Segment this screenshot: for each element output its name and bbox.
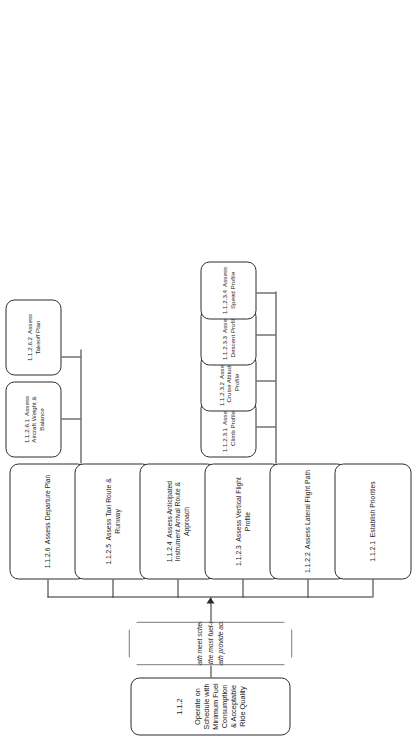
spine-stub-1-1-2-5: [112, 579, 113, 597]
node-1-1-2-6-id: 1.1.2.6: [43, 545, 50, 568]
node-1-1-2-3-id: 1.1.2.3: [234, 543, 241, 566]
node-root-1-1-2[interactable]: 1.1.2 Operate on Schedule with Minimum F…: [130, 677, 290, 735]
node-1-1-2-5-id: 1.1.2.5: [104, 542, 111, 565]
subbus-1-1-2-3: [275, 291, 276, 463]
node-1-1-2-3-4-id: 1.1.2.3.4: [220, 288, 227, 314]
substub-1-1-2-3-3: [256, 334, 275, 335]
node-1-1-2-3-2-id: 1.1.2.3.2: [217, 380, 224, 406]
spine-stub-1-1-2-3: [242, 579, 243, 597]
substub-1-1-2-3-2: [256, 380, 275, 381]
substub-1-1-2-3-4: [256, 292, 275, 293]
node-1-1-2-6-2[interactable]: 1.1.2.6.2 Assess Takeoff Plan: [5, 299, 61, 375]
node-root-label: Operate on Schedule with Minimum Fuel Co…: [192, 682, 246, 730]
node-1-1-2-3-4[interactable]: 1.1.2.3.4 Assess Speed Profile: [200, 261, 256, 319]
node-1-1-2-6-label: Assess Departure Plan: [43, 474, 50, 544]
rotated-diagram-group: 1.1.2 Operate on Schedule with Minimum F…: [0, 0, 419, 749]
decision-questions-octagon[interactable]: Does planned flight path meet schedule? …: [128, 621, 292, 665]
substub-1-1-2-3-1: [256, 426, 275, 427]
subbus-1-1-2-6: [80, 349, 81, 463]
node-1-1-2-1[interactable]: 1.1.2.1 Establish Priorities: [334, 463, 411, 579]
spine-stub-1-1-2-2: [307, 579, 308, 597]
node-1-1-2-1-label: Establish Priorities: [368, 481, 375, 537]
node-1-1-2-4-id: 1.1.2.4: [165, 539, 172, 562]
main-spine: [47, 596, 372, 597]
node-1-1-2-3-1-id: 1.1.2.3.1: [220, 426, 227, 452]
node-root-id: 1.1.2: [174, 682, 183, 730]
diagram-canvas: 1.1.2 Operate on Schedule with Minimum F…: [0, 0, 419, 749]
node-1-1-2-2-label: Assess Lateral Flight Path: [303, 469, 310, 548]
node-1-1-2-6-1-id: 1.1.2.6.1: [22, 417, 29, 443]
spine-stub-1-1-2-1: [372, 579, 373, 597]
spine-stub-1-1-2-4: [177, 579, 178, 597]
node-1-1-2-1-id: 1.1.2.1: [368, 539, 375, 562]
substub-1-1-2-6-1: [61, 418, 80, 419]
connector-root-to-decision: [210, 665, 211, 677]
spine-stub-1-1-2-6: [47, 579, 48, 597]
node-1-1-2-3-3-id: 1.1.2.3.3: [220, 334, 227, 360]
node-1-1-2-5-label: Assess Taxi Route & Runway: [104, 478, 119, 540]
node-1-1-2-3-label: Assess Vertical Flight Profile: [234, 477, 249, 542]
node-1-1-2-2-id: 1.1.2.2: [303, 550, 310, 573]
node-1-1-2-6-2-id: 1.1.2.6.2: [25, 335, 32, 361]
spine-arrowhead-icon: [206, 597, 214, 603]
substub-1-1-2-6-2: [61, 356, 80, 357]
node-1-1-2-6-1[interactable]: 1.1.2.6.1 Assess Aircraft Weight & Balan…: [5, 381, 61, 457]
